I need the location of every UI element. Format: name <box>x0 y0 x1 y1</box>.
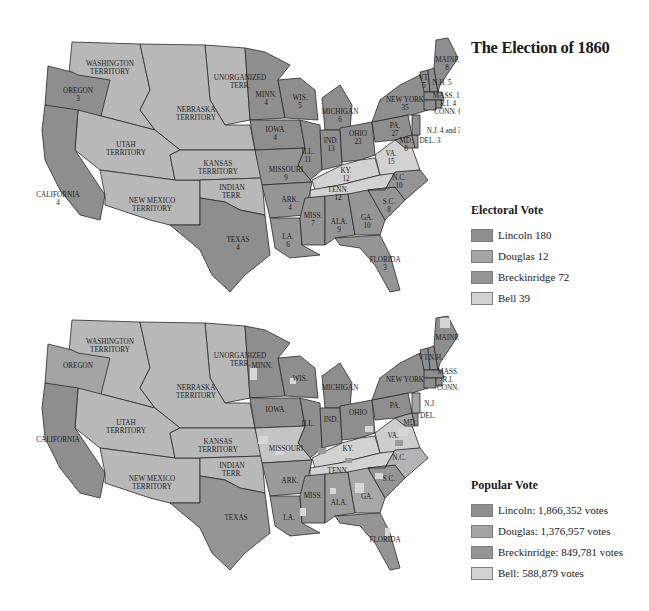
electoral-vote-map: WASHINGTONTERRITORY OREGON3 UNORGANIZEDT… <box>0 30 460 300</box>
region-connecticut <box>424 378 436 388</box>
popular-legend-title: Popular Vote <box>471 478 623 493</box>
svg-text:NEBRASKATERRITORY: NEBRASKATERRITORY <box>176 106 217 122</box>
legend-label: Bell: 588,879 votes <box>498 567 584 579</box>
svg-text:R.I. 4: R.I. 4 <box>440 100 457 108</box>
svg-text:MISS.: MISS. <box>304 492 323 500</box>
svg-text:DEL.: DEL. <box>420 412 436 420</box>
svg-text:N.J. 4 and 3: N.J. 4 and 3 <box>427 127 460 135</box>
svg-text:MASS.: MASS. <box>437 368 459 376</box>
region-iowa <box>250 120 305 150</box>
svg-text:OREGON: OREGON <box>63 362 94 370</box>
svg-text:VT.: VT. <box>419 354 430 362</box>
svg-text:DEL. 3: DEL. 3 <box>419 137 441 145</box>
svg-text:NEW MEXICOTERRITORY: NEW MEXICOTERRITORY <box>129 197 175 213</box>
svg-text:CONN.: CONN. <box>437 384 459 392</box>
legend-label: Lincoln 180 <box>498 229 551 241</box>
legend-item-breckinridge: Breckinridge 72 <box>471 267 569 287</box>
bell-swatch <box>471 567 493 580</box>
svg-text:NEBRASKATERRITORY: NEBRASKATERRITORY <box>176 384 217 400</box>
svg-text:TENN.: TENN. <box>328 467 349 475</box>
legend-item-breckinridge: Breckinridge: 849,781 votes <box>471 542 623 562</box>
svg-text:N.H. 5: N.H. 5 <box>432 79 452 87</box>
breckinridge-swatch <box>471 271 493 284</box>
popular-vote-map: WASHINGTONTERRITORY OREGON UNORGANIZEDTE… <box>0 308 460 578</box>
svg-text:N.H.: N.H. <box>429 354 443 362</box>
svg-text:MASS. 13: MASS. 13 <box>433 92 460 100</box>
svg-text:INDIANTERR.: INDIANTERR. <box>219 462 245 478</box>
legend-item-douglas: Douglas: 1,376,957 votes <box>471 521 623 541</box>
breckinridge-swatch <box>471 546 493 559</box>
svg-text:ARK.: ARK. <box>282 477 299 485</box>
electoral-legend-title: Electoral Vote <box>471 203 569 218</box>
region-ohio <box>340 400 375 440</box>
legend-label: Douglas: 1,376,957 votes <box>498 525 610 537</box>
svg-text:MICHIGAN: MICHIGAN <box>322 384 360 392</box>
legend-item-douglas: Douglas 12 <box>471 246 569 266</box>
svg-text:WIS.: WIS. <box>293 375 308 383</box>
svg-text:NEW YORK: NEW YORK <box>386 376 425 384</box>
legend-item-bell: Bell 39 <box>471 288 569 308</box>
svg-text:WASHINGTONTERRITORY: WASHINGTONTERRITORY <box>86 338 135 354</box>
svg-text:IOWA: IOWA <box>266 406 286 414</box>
legend-label: Lincoln: 1,866,352 votes <box>498 504 608 516</box>
svg-text:ILL.: ILL. <box>302 420 315 428</box>
svg-text:ALA.: ALA. <box>331 499 348 507</box>
svg-text:KY.: KY. <box>342 445 353 453</box>
svg-text:VA.: VA. <box>387 432 398 440</box>
legend-item-lincoln: Lincoln 180 <box>471 225 569 245</box>
svg-text:PA.: PA. <box>390 402 401 410</box>
legend-label: Douglas 12 <box>498 250 548 262</box>
douglas-swatch <box>471 525 493 538</box>
lincoln-swatch <box>471 229 493 242</box>
svg-text:N.J.: N.J. <box>424 400 436 408</box>
svg-text:MISSOURI: MISSOURI <box>269 445 304 453</box>
legend-label: Bell 39 <box>498 292 530 304</box>
svg-text:FLORIDA: FLORIDA <box>369 536 401 544</box>
popular-map-svg: WASHINGTONTERRITORY OREGON UNORGANIZEDTE… <box>0 308 460 578</box>
svg-text:INDIANTERR.: INDIANTERR. <box>219 184 245 200</box>
svg-text:N.C.: N.C. <box>392 454 406 462</box>
legend-item-bell: Bell: 588,879 votes <box>471 563 623 583</box>
lincoln-swatch <box>471 504 493 517</box>
legend-label: Breckinridge: 849,781 votes <box>498 546 623 558</box>
popular-vote-legend: Popular Vote Lincoln: 1,866,352 votes Do… <box>471 478 623 584</box>
electoral-vote-legend: Electoral Vote Lincoln 180 Douglas 12 Br… <box>471 203 569 309</box>
region-new-jersey <box>412 115 420 135</box>
svg-text:GA.: GA. <box>361 493 373 501</box>
svg-text:OHIO: OHIO <box>349 409 367 417</box>
region-new-jersey <box>412 393 420 413</box>
legend-label: Breckinridge 72 <box>498 271 569 283</box>
svg-text:CONN. 6: CONN. 6 <box>434 108 460 116</box>
svg-text:MD.: MD. <box>403 419 417 427</box>
electoral-map-svg: WASHINGTONTERRITORY OREGON3 UNORGANIZEDT… <box>0 30 460 300</box>
legend-item-lincoln: Lincoln: 1,866,352 votes <box>471 500 623 520</box>
svg-text:MAINE: MAINE <box>435 334 459 342</box>
bell-swatch <box>471 292 493 305</box>
svg-text:R.I.: R.I. <box>443 376 454 384</box>
douglas-swatch <box>471 250 493 263</box>
page-title: The Election of 1860 <box>471 38 609 58</box>
svg-text:IND.: IND. <box>324 416 339 424</box>
svg-text:S.C.: S.C. <box>383 475 396 483</box>
svg-text:MINN.: MINN. <box>252 362 273 370</box>
svg-text:LA.: LA. <box>283 514 295 522</box>
svg-text:NEW MEXICOTERRITORY: NEW MEXICOTERRITORY <box>129 475 175 491</box>
svg-text:WASHINGTONTERRITORY: WASHINGTONTERRITORY <box>86 60 135 76</box>
svg-text:CALIFORNIA: CALIFORNIA <box>36 436 80 444</box>
svg-text:TEXAS: TEXAS <box>224 514 247 522</box>
region-indiana <box>320 408 342 448</box>
